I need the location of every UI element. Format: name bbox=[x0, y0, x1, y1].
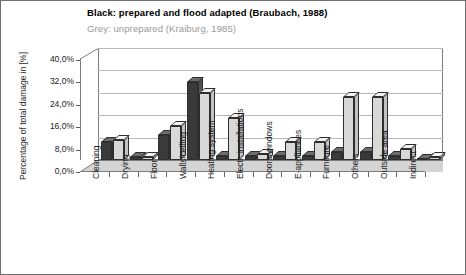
x-tick-mark bbox=[224, 172, 225, 177]
bar bbox=[245, 151, 256, 160]
chart-figure: Black: prepared and flood adapted (Braub… bbox=[0, 0, 466, 275]
y-tick-mark bbox=[76, 60, 80, 61]
bar bbox=[429, 152, 440, 160]
gridline bbox=[98, 115, 443, 116]
bar-side bbox=[354, 92, 359, 160]
bar-side bbox=[383, 92, 388, 160]
y-tick-label: 32,0% bbox=[30, 76, 74, 86]
y-axis-title: Percentage of total damage in [%] bbox=[18, 31, 28, 201]
x-tick-mark bbox=[425, 172, 426, 177]
bar bbox=[142, 152, 153, 160]
bar bbox=[101, 137, 112, 160]
gridline bbox=[98, 70, 443, 71]
bar bbox=[400, 144, 411, 160]
bar bbox=[273, 151, 284, 160]
bar-front bbox=[158, 135, 169, 160]
bar-front bbox=[101, 142, 112, 160]
x-tick-mark bbox=[138, 172, 139, 177]
bar-front bbox=[331, 152, 342, 160]
gridline bbox=[98, 138, 443, 139]
bar bbox=[130, 152, 141, 160]
bar-side bbox=[181, 121, 186, 160]
x-tick-mark bbox=[166, 172, 167, 177]
y-tick-mark bbox=[76, 127, 80, 128]
bar bbox=[187, 77, 198, 160]
x-tick-mark bbox=[109, 172, 110, 177]
bar bbox=[113, 135, 124, 160]
bar bbox=[228, 113, 239, 160]
y-tick-label: 16,0% bbox=[30, 121, 74, 131]
plot-back-wall bbox=[98, 48, 443, 160]
x-tick-mark bbox=[253, 172, 254, 177]
bar-front bbox=[343, 97, 354, 160]
x-tick-mark bbox=[339, 172, 340, 177]
bar-front bbox=[285, 142, 296, 160]
bar-side bbox=[210, 88, 215, 160]
y-tick-label: 24,0% bbox=[30, 99, 74, 109]
bar-front bbox=[400, 149, 411, 160]
bar-front bbox=[360, 152, 371, 160]
bar bbox=[158, 130, 169, 160]
bar bbox=[314, 137, 325, 160]
y-tick-mark bbox=[76, 105, 80, 106]
bar bbox=[199, 88, 210, 160]
bar-front bbox=[142, 157, 153, 160]
x-tick-mark bbox=[195, 172, 196, 177]
bar-front bbox=[257, 154, 268, 160]
bar bbox=[216, 151, 227, 160]
bar bbox=[360, 147, 371, 160]
bar-front bbox=[314, 142, 325, 160]
plot-floor-back-edge bbox=[98, 160, 443, 161]
bar bbox=[388, 151, 399, 160]
x-tick-mark bbox=[281, 172, 282, 177]
bar-front bbox=[429, 157, 440, 160]
chart-title-block: Black: prepared and flood adapted (Braub… bbox=[87, 7, 327, 34]
bar bbox=[372, 92, 383, 160]
chart-title-primary: Black: prepared and flood adapted (Braub… bbox=[87, 7, 327, 18]
bar-front bbox=[245, 156, 256, 160]
bar bbox=[257, 149, 268, 160]
bar bbox=[331, 147, 342, 160]
bar-front bbox=[302, 156, 313, 160]
bar-front bbox=[170, 126, 181, 160]
x-tick-mark bbox=[310, 172, 311, 177]
chart-title-secondary: Grey: unprepared (Kraiburg, 1985) bbox=[87, 23, 327, 34]
bar-side bbox=[239, 113, 244, 160]
x-tick-mark bbox=[396, 172, 397, 177]
y-tick-label: 0,0% bbox=[30, 166, 74, 176]
bar-front bbox=[216, 156, 227, 160]
plot-side-wall bbox=[80, 48, 99, 160]
gridline bbox=[98, 48, 443, 49]
bar-front bbox=[113, 140, 124, 160]
plot-area bbox=[98, 48, 443, 160]
plot-floor-left-edge bbox=[80, 160, 98, 172]
y-tick-mark bbox=[76, 172, 80, 173]
bar-front bbox=[130, 157, 141, 160]
bar-front bbox=[199, 93, 210, 160]
bar-front bbox=[273, 156, 284, 160]
bar bbox=[302, 151, 313, 160]
y-tick-mark bbox=[76, 82, 80, 83]
y-tick-label: 40,0% bbox=[30, 54, 74, 64]
bar bbox=[343, 92, 354, 160]
y-tick-mark bbox=[76, 150, 80, 151]
x-tick-mark bbox=[368, 172, 369, 177]
bar-front bbox=[228, 118, 239, 160]
bar-front bbox=[388, 156, 399, 160]
bar-front bbox=[372, 97, 383, 160]
y-tick-label: 8,0% bbox=[30, 144, 74, 154]
bar bbox=[285, 137, 296, 160]
gridline bbox=[98, 93, 443, 94]
bar-front bbox=[417, 158, 428, 160]
plot-side-wall-edge bbox=[80, 48, 99, 60]
bar-front bbox=[187, 82, 198, 160]
bar bbox=[417, 154, 428, 161]
bar bbox=[170, 121, 181, 160]
